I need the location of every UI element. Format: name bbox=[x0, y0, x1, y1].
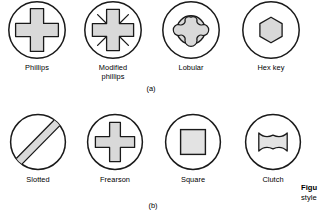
screw-drive-styles-figure: Phillips Modified phillips Lobu bbox=[0, 0, 333, 220]
drive-label: Frearson bbox=[72, 175, 158, 184]
phillips-drive-icon bbox=[7, 0, 67, 60]
figure-caption-body: style bbox=[301, 193, 317, 202]
frearson-drive-icon bbox=[85, 112, 145, 172]
drive-label: Modified phillips bbox=[70, 63, 156, 81]
panel-a: Phillips Modified phillips Lobu bbox=[0, 0, 333, 100]
drive-label: Lobular bbox=[148, 63, 234, 72]
drive-label: Phillips bbox=[0, 63, 80, 72]
drive-cell-square: Square bbox=[150, 112, 236, 184]
drive-cell-phillips: Phillips bbox=[0, 0, 80, 72]
drive-label: Square bbox=[150, 175, 236, 184]
drive-cell-slotted: Slotted bbox=[0, 112, 81, 184]
panel-b-tag: (b) bbox=[133, 201, 173, 210]
slotted-drive-icon bbox=[8, 112, 68, 172]
lobular-drive-icon bbox=[161, 0, 221, 60]
square-drive-icon bbox=[163, 112, 223, 172]
hex-key-drive-icon bbox=[241, 0, 301, 60]
drive-cell-frearson: Frearson bbox=[72, 112, 158, 184]
drive-cell-lobular: Lobular bbox=[148, 0, 234, 72]
modified-phillips-drive-icon bbox=[83, 0, 143, 60]
drive-label: Hex key bbox=[228, 63, 314, 72]
figure-caption: Figu style bbox=[301, 183, 333, 203]
drive-cell-clutch: Clutch bbox=[230, 112, 316, 184]
figure-caption-lead: Figu bbox=[301, 183, 317, 192]
clutch-drive-icon bbox=[243, 112, 303, 172]
drive-cell-hex-key: Hex key bbox=[228, 0, 314, 72]
panel-b: Slotted Frearson Square Clutch (b) bbox=[0, 112, 333, 220]
panel-a-tag: (a) bbox=[131, 84, 171, 93]
drive-cell-modified-phillips: Modified phillips bbox=[70, 0, 156, 81]
drive-label: Slotted bbox=[0, 175, 81, 184]
